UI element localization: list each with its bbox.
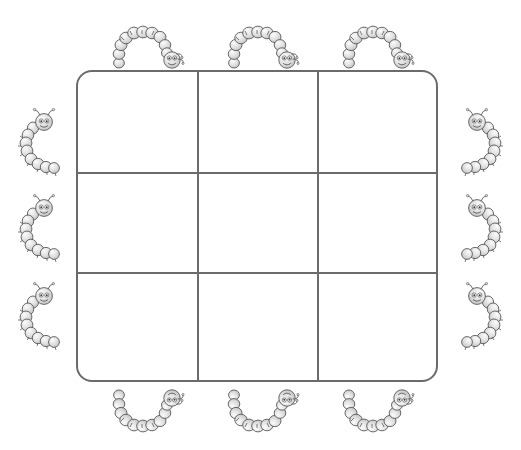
caterpillar-u-icon: [341, 384, 415, 436]
caterpillar-arch-icon: [341, 22, 415, 74]
caterpillar-arch-icon: [111, 22, 185, 74]
caterpillar-c-icon: [18, 278, 70, 352]
caterpillar-right-2: [451, 190, 503, 264]
caterpillar-c-flip-icon: [451, 278, 503, 352]
caterpillar-left-1: [18, 104, 70, 178]
grid-cell-r1c3[interactable]: [319, 72, 436, 172]
grid-cell-r3c1[interactable]: [78, 274, 197, 380]
caterpillar-top-1: [111, 22, 185, 74]
grid-cell-r3c2[interactable]: [199, 274, 317, 380]
tic-tac-toe-grid: [76, 70, 438, 382]
grid-cell-r2c1[interactable]: [78, 174, 197, 272]
caterpillar-c-flip-icon: [451, 190, 503, 264]
caterpillar-top-3: [341, 22, 415, 74]
grid-cell-r2c2[interactable]: [199, 174, 317, 272]
caterpillar-left-3: [18, 278, 70, 352]
caterpillar-u-icon: [111, 384, 185, 436]
caterpillar-top-2: [226, 22, 300, 74]
caterpillar-c-icon: [18, 190, 70, 264]
caterpillar-u-icon: [226, 384, 300, 436]
caterpillar-arch-icon: [226, 22, 300, 74]
grid-cell-r2c3[interactable]: [319, 174, 436, 272]
caterpillar-bottom-1: [111, 384, 185, 436]
caterpillar-bottom-2: [226, 384, 300, 436]
caterpillar-right-1: [451, 104, 503, 178]
caterpillar-right-3: [451, 278, 503, 352]
grid-cell-r1c1[interactable]: [78, 72, 197, 172]
grid-cell-r1c2[interactable]: [199, 72, 317, 172]
grid-cell-r3c3[interactable]: [319, 274, 436, 380]
caterpillar-bottom-3: [341, 384, 415, 436]
caterpillar-c-flip-icon: [451, 104, 503, 178]
caterpillar-c-icon: [18, 104, 70, 178]
worksheet-canvas: [0, 0, 521, 450]
caterpillar-left-2: [18, 190, 70, 264]
